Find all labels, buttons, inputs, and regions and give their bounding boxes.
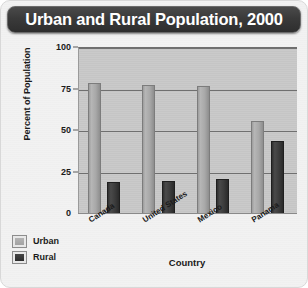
bar-urban (197, 86, 210, 214)
y-tick-mark (73, 47, 78, 48)
legend-swatch-urban (13, 236, 26, 247)
x-axis-title: Country (78, 257, 296, 268)
legend-label-rural: Rural (33, 252, 56, 262)
legend-item-urban: Urban (13, 233, 59, 249)
y-tick-mark (73, 171, 78, 172)
gridline (79, 48, 297, 49)
y-tick-label: 100 (45, 42, 71, 52)
y-tick-label: 0 (45, 208, 71, 218)
bar-urban (88, 83, 101, 214)
bar-urban (142, 85, 155, 214)
gridline (79, 131, 297, 132)
legend-label-urban: Urban (33, 236, 59, 246)
y-tick-mark (73, 130, 78, 131)
y-tick-label: 50 (45, 125, 71, 135)
y-tick-label: 25 (45, 167, 71, 177)
y-tick-label: 75 (45, 84, 71, 94)
legend-swatch-rural (13, 252, 26, 263)
y-tick-mark (73, 88, 78, 89)
gridline (79, 90, 297, 91)
gridline (79, 173, 297, 174)
chart-figure: Urban and Rural Population, 2000 Percent… (0, 0, 308, 288)
bar-urban (251, 121, 264, 214)
plot-area (78, 47, 297, 214)
chart-legend: Urban Rural (13, 233, 59, 265)
legend-item-rural: Rural (13, 249, 59, 265)
